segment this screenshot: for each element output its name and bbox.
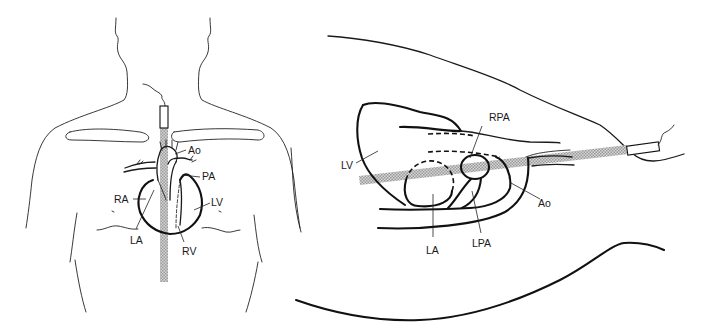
frontal-labels: Ao PA RA LV LA RV <box>114 144 223 257</box>
transducer-icon-sagittal <box>627 125 674 155</box>
label-ao: Ao <box>188 144 201 156</box>
diagram-figure: Ao PA RA LV LA RV <box>0 0 708 335</box>
frontal-view-panel: Ao PA RA LV LA RV <box>26 18 300 312</box>
label-ra: RA <box>114 193 129 205</box>
label-lv: LV <box>211 196 223 208</box>
label-la-sagittal: LA <box>426 244 439 256</box>
sagittal-view-panel: LV RPA Ao LA LPA <box>291 36 684 320</box>
chest-contours <box>97 211 240 232</box>
label-rpa: RPA <box>489 111 510 123</box>
ultrasound-beam <box>160 128 168 282</box>
label-ao-sagittal: Ao <box>538 197 551 209</box>
label-lv-sagittal: LV <box>341 159 353 171</box>
label-pa: PA <box>202 170 215 182</box>
label-lpa: LPA <box>472 237 491 249</box>
label-la: LA <box>130 234 143 246</box>
body-outline <box>291 36 684 320</box>
label-rv: RV <box>182 245 196 257</box>
ultrasound-beam-sagittal <box>359 145 629 185</box>
diagram-canvas: Ao PA RA LV LA RV <box>0 0 708 335</box>
transducer-icon <box>143 84 168 128</box>
